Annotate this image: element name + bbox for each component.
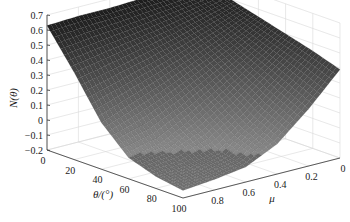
y-tick-label: 0.2 [305, 171, 318, 182]
z-tick-label: 0.7 [31, 10, 44, 21]
z-tick-label: 0.4 [31, 55, 44, 66]
y-tick-label: 0 [341, 163, 346, 174]
x-tick-label: 100 [172, 203, 187, 214]
x-tick-label: 20 [65, 165, 75, 176]
x-tick-label: 40 [92, 174, 102, 185]
z-tick-label: 0.2 [31, 85, 44, 96]
y-axis-label: μ [268, 192, 275, 204]
x-axis-label: θ/(°) [93, 188, 114, 201]
z-tick-label: −0.2 [25, 145, 43, 156]
z-tick-label: 0.3 [31, 70, 44, 81]
surface [47, 0, 340, 190]
x-tick-label: 60 [120, 184, 130, 195]
z-tick-label: 0.5 [31, 40, 44, 51]
y-tick-label: 0.4 [274, 179, 287, 190]
x-tick-label: 80 [147, 193, 157, 204]
z-tick-label: 0.6 [31, 25, 44, 36]
z-axis-label: N(θ) [7, 88, 20, 109]
y-tick-label: 0.6 [243, 187, 256, 198]
x-tick-label: 0 [41, 155, 46, 166]
z-tick-label: 0.1 [31, 100, 44, 111]
z-tick-label: 0 [38, 115, 43, 126]
z-tick-label: −0.1 [25, 130, 43, 141]
surface-plot: 0.70.60.50.40.30.20.10−0.1−0.20204060801… [0, 0, 350, 222]
y-tick-label: 0.8 [211, 195, 224, 206]
